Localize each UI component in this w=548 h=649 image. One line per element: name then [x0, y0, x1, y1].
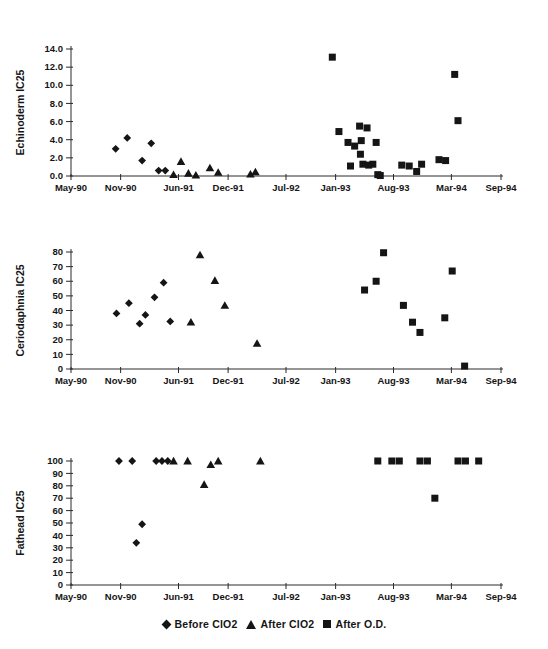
x-tick-label: Aug-93: [377, 375, 409, 386]
diamond-data-point: [138, 520, 146, 528]
x-tick-label: Mar-94: [436, 182, 467, 193]
y-tick-label: 10: [52, 349, 63, 360]
y-tick-label: 70: [52, 261, 63, 272]
diamond-data-point: [142, 311, 150, 319]
square-data-point: [377, 172, 384, 179]
echinoderm-ic25-chart: 0.02.04.06.08.010.012.014.0May-90Nov-90J…: [0, 30, 548, 208]
square-data-point: [357, 151, 364, 158]
y-tick-label: 80: [52, 246, 63, 257]
y-tick-label: 10.0: [45, 79, 64, 90]
triangle-data-point: [256, 457, 265, 465]
legend-item-after-clo2: After ClO2: [246, 618, 314, 630]
x-tick-label: Mar-94: [436, 591, 467, 602]
y-tick-label: 0: [58, 579, 63, 590]
square-data-point: [431, 495, 438, 502]
square-data-point: [416, 458, 423, 465]
square-data-point: [418, 161, 425, 168]
legend-label: Before ClO2: [175, 618, 238, 630]
legend-item-before-clo2: Before ClO2: [162, 618, 238, 630]
legend-label: After ClO2: [260, 618, 314, 630]
y-tick-label: 6.0: [50, 116, 63, 127]
triangle-data-point: [214, 168, 223, 176]
x-tick-label: Nov-90: [105, 375, 137, 386]
y-tick-label: 50: [52, 290, 63, 301]
triangle-data-point: [192, 171, 201, 179]
y-tick-label: 50: [52, 517, 63, 528]
square-data-point: [374, 458, 381, 465]
diamond-data-point: [166, 318, 174, 326]
y-tick-label: 2.0: [50, 152, 63, 163]
square-data-point: [329, 54, 336, 61]
x-tick-label: Jan-93: [321, 182, 351, 193]
square-data-point: [369, 161, 376, 168]
x-tick-label: May-90: [55, 591, 87, 602]
legend-label: After O.D.: [335, 618, 386, 630]
y-tick-label: 60: [52, 505, 63, 516]
square-data-point: [373, 278, 380, 285]
x-tick-label: Sep-94: [485, 375, 517, 386]
square-data-point: [462, 458, 469, 465]
fathead-plot: 0102030405060708090100May-90Nov-90Jun-91…: [0, 448, 548, 610]
square-data-point: [345, 139, 352, 146]
x-tick-label: Aug-93: [377, 591, 409, 602]
scanned-report-page: 0.02.04.06.08.010.012.014.0May-90Nov-90J…: [0, 0, 548, 649]
y-tick-label: 8.0: [50, 98, 63, 109]
triangle-data-point: [183, 457, 192, 465]
square-data-point: [358, 137, 365, 144]
square-data-point: [449, 268, 456, 275]
diamond-data-point: [115, 457, 123, 465]
square-data-point: [461, 363, 468, 370]
triangle-data-point: [196, 251, 205, 259]
square-data-point: [406, 163, 413, 170]
y-tick-label: 40: [52, 305, 63, 316]
legend: Before ClO2 After ClO2 After O.D.: [0, 618, 548, 630]
x-tick-label: Jun-91: [163, 182, 194, 193]
square-data-point: [373, 139, 380, 146]
diamond-data-point: [151, 293, 159, 301]
diamond-icon: [161, 619, 171, 629]
triangle-data-point: [187, 318, 196, 326]
square-data-point: [424, 458, 431, 465]
x-tick-label: Jan-93: [321, 375, 351, 386]
diamond-data-point: [132, 539, 140, 547]
square-data-point: [364, 124, 371, 131]
triangle-data-point: [214, 457, 223, 465]
triangle-data-point: [211, 276, 220, 284]
y-tick-label: 20: [52, 554, 63, 565]
square-data-point: [356, 123, 363, 130]
triangle-data-point: [253, 339, 262, 347]
square-data-point: [451, 71, 458, 78]
diamond-data-point: [161, 167, 169, 175]
square-data-point: [455, 117, 462, 124]
square-data-point: [396, 458, 403, 465]
y-tick-label: 40: [52, 530, 63, 541]
diamond-data-point: [113, 310, 121, 318]
y-tick-label: 60: [52, 275, 63, 286]
triangle-data-point: [251, 168, 260, 176]
y-tick-label: 90: [52, 468, 63, 479]
x-tick-label: Jun-91: [163, 591, 194, 602]
square-data-point: [455, 458, 462, 465]
square-data-point: [475, 458, 482, 465]
square-data-point: [416, 329, 423, 336]
y-tick-label: 0.0: [50, 170, 63, 181]
x-tick-label: May-90: [55, 375, 87, 386]
diamond-data-point: [112, 145, 120, 153]
x-tick-label: Jan-93: [321, 591, 351, 602]
square-data-point: [380, 249, 387, 256]
triangle-data-point: [206, 461, 215, 469]
triangle-data-point: [200, 480, 209, 488]
diamond-data-point: [160, 279, 168, 287]
diamond-data-point: [128, 457, 136, 465]
diamond-data-point: [138, 157, 146, 165]
square-data-point: [435, 156, 442, 163]
x-tick-label: Jul-92: [272, 591, 299, 602]
diamond-data-point: [125, 299, 133, 307]
square-data-point: [413, 168, 420, 175]
x-tick-label: Jul-92: [272, 375, 299, 386]
square-data-point: [441, 314, 448, 321]
y-tick-label: 100: [47, 455, 63, 466]
x-tick-label: Mar-94: [436, 375, 467, 386]
y-tick-label: 30: [52, 319, 63, 330]
x-tick-label: Jun-91: [163, 375, 194, 386]
